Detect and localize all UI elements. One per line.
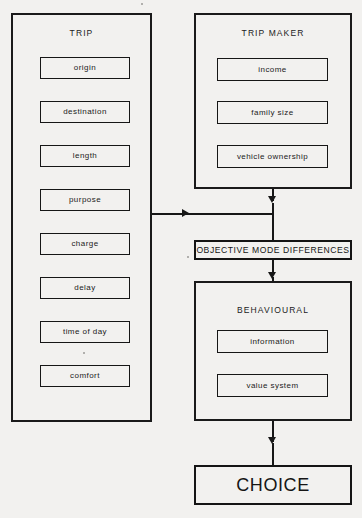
diagram-canvas: TRIP origin destination length purpose c… bbox=[0, 0, 362, 518]
trip-item-delay-label: delay bbox=[74, 284, 95, 292]
scan-speck bbox=[187, 256, 189, 258]
behavioural-item-value-system[interactable]: value system bbox=[217, 374, 328, 397]
group-trip-title: TRIP bbox=[11, 28, 152, 38]
trip-item-destination-label: destination bbox=[63, 108, 107, 116]
trip-item-charge[interactable]: charge bbox=[40, 233, 130, 255]
trip-maker-item-income-label: income bbox=[258, 66, 287, 74]
trip-item-comfort-label: comfort bbox=[70, 372, 100, 380]
trip-item-purpose[interactable]: purpose bbox=[40, 189, 130, 211]
connector-junction-to-objective bbox=[272, 203, 274, 240]
trip-item-origin-label: origin bbox=[74, 64, 96, 72]
trip-item-delay[interactable]: delay bbox=[40, 277, 130, 299]
arrow-right-icon-trip bbox=[182, 209, 189, 217]
trip-item-time-of-day-label: time of day bbox=[63, 328, 107, 336]
trip-item-time-of-day[interactable]: time of day bbox=[40, 321, 130, 343]
trip-item-comfort[interactable]: comfort bbox=[40, 365, 130, 387]
trip-item-origin[interactable]: origin bbox=[40, 57, 130, 79]
trip-item-destination[interactable]: destination bbox=[40, 101, 130, 123]
node-objective-mode-differences[interactable]: OBJECTIVE MODE DIFFERENCES bbox=[194, 240, 352, 260]
trip-maker-item-income[interactable]: income bbox=[217, 58, 328, 81]
trip-maker-item-family-size[interactable]: family size bbox=[217, 101, 328, 124]
trip-item-charge-label: charge bbox=[71, 240, 98, 248]
trip-item-length-label: length bbox=[73, 152, 98, 160]
scan-speck bbox=[141, 3, 143, 5]
behavioural-item-information[interactable]: information bbox=[217, 330, 328, 353]
group-behavioural-title: BEHAVIOURAL bbox=[194, 305, 352, 315]
trip-item-purpose-label: purpose bbox=[69, 196, 101, 204]
arrow-down-icon-trip-maker bbox=[268, 196, 276, 203]
node-choice[interactable]: CHOICE bbox=[194, 465, 352, 505]
connector-trip-to-junction bbox=[152, 213, 273, 215]
trip-maker-item-vehicle-ownership-label: vehicle ownership bbox=[237, 153, 308, 161]
behavioural-item-information-label: information bbox=[250, 338, 295, 346]
node-objective-mode-differences-label: OBJECTIVE MODE DIFFERENCES bbox=[196, 245, 349, 255]
trip-item-length[interactable]: length bbox=[40, 145, 130, 167]
connector-behavioural-to-choice-tail bbox=[272, 443, 274, 465]
trip-maker-item-vehicle-ownership[interactable]: vehicle ownership bbox=[217, 145, 328, 168]
behavioural-item-value-system-label: value system bbox=[246, 382, 298, 390]
group-trip-maker-title: TRIP MAKER bbox=[194, 28, 352, 38]
node-choice-label: CHOICE bbox=[236, 475, 310, 496]
trip-maker-item-family-size-label: family size bbox=[251, 109, 293, 117]
scan-speck bbox=[83, 352, 85, 354]
